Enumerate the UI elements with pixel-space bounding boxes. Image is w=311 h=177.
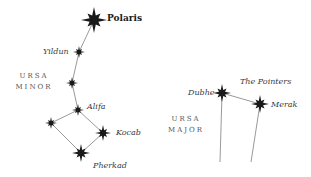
little-dipper-outline <box>51 20 103 153</box>
star-umi-3 <box>66 77 78 89</box>
star-polaris <box>81 7 107 33</box>
constellation-ursa-major: URSA MAJOR <box>166 114 206 136</box>
label-yildun: Yildun <box>43 48 69 56</box>
label-merak: Merak <box>271 101 297 109</box>
label-kocab: Kocab <box>116 129 141 137</box>
ursa-major-lines <box>220 93 260 162</box>
label-polaris: Polaris <box>107 14 142 23</box>
ursa-minor-lines <box>51 20 103 153</box>
ursa-minor-line2: MINOR <box>14 82 54 93</box>
ursa-minor-line1: URSA <box>14 71 54 82</box>
star-merak <box>251 95 269 113</box>
star-dubhe <box>213 84 231 102</box>
label-pherkad: Pherkad <box>93 162 127 170</box>
pointers-line <box>222 93 260 104</box>
dubhe-down-line <box>220 93 222 162</box>
label-alifa: Alifa <box>87 103 106 111</box>
ursa-major-line2: MAJOR <box>166 125 206 136</box>
star-yildun <box>73 46 85 58</box>
constellation-ursa-minor: URSA MINOR <box>14 71 54 93</box>
label-dubhe: Dubhe <box>188 89 215 97</box>
merak-down-line <box>251 104 260 162</box>
ursa-major-line1: URSA <box>166 114 206 125</box>
label-the-pointers: The Pointers <box>240 78 291 86</box>
